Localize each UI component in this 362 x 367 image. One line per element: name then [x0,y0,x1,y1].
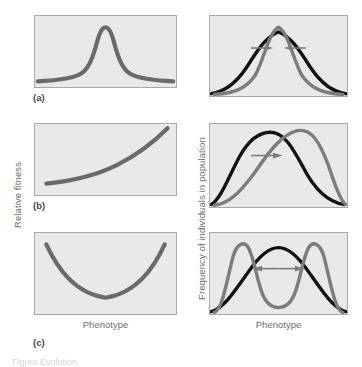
panel-letter-c: (c) [33,337,45,348]
panel-frequency-directional [209,123,348,208]
before-selection-curve-a [211,32,345,94]
panel-fitness-stabilizing [34,15,177,88]
panel-fitness-directional [34,123,177,196]
after-selection-curve-c [214,244,343,313]
fitness-curve-c [46,244,164,297]
fitness-curve-b [46,128,167,183]
fitness-curve-directional-svg [35,124,176,195]
panel-frequency-disruptive [209,232,348,315]
panel-letter-a: (a) [33,92,45,103]
panel-fitness-disruptive [34,232,177,315]
relative-fitness-axis-title: Relative fitness [12,162,23,228]
frequency-axis-title: Frequency of individuals in population [196,137,207,300]
phenotype-axis-label-left: Phenotype [34,319,177,330]
frequency-curves-directional-svg [210,124,347,207]
panel-frequency-stabilizing [209,15,348,97]
figure-caption-remnant: Figure Evolution [12,357,77,367]
phenotype-axis-label-right: Phenotype [209,319,348,330]
fitness-curve-stabilizing-svg [35,16,176,87]
panel-letter-b: (b) [33,200,45,211]
fitness-curve-a [38,27,173,81]
fitness-curve-disruptive-svg [35,233,176,314]
frequency-curves-stabilizing-svg [210,16,347,96]
frequency-curves-disruptive-svg [210,233,347,314]
